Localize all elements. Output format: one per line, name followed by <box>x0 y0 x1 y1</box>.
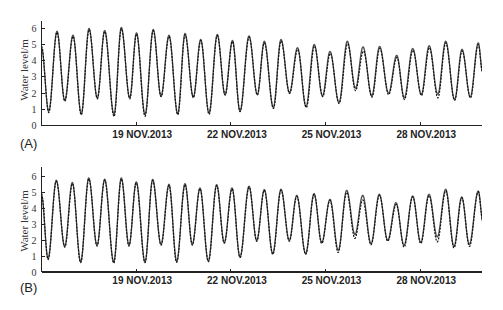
panel-label: (A) <box>20 136 37 151</box>
x-tick-date-label: 28 NOV.2013 <box>396 275 456 286</box>
y-tick-label: 5 <box>32 187 37 198</box>
dashed-series-line <box>42 29 483 117</box>
x-tick-date-label: 28 NOV.2013 <box>396 129 456 140</box>
panel-label: (B) <box>20 280 37 295</box>
y-tick-label: 2 <box>32 88 37 99</box>
y-tick-label: 0 <box>32 267 37 278</box>
y-tick-label: 1 <box>32 104 37 115</box>
x-tick-date-label: 22 NOV.2013 <box>207 129 267 140</box>
y-tick-label: 6 <box>32 171 37 182</box>
x-tick-date-label: 22 NOV.2013 <box>207 275 267 286</box>
y-tick-label: 4 <box>32 203 37 214</box>
x-tick-date-label: 25 NOV.2013 <box>302 275 362 286</box>
figure: 012345619 NOV.201322 NOV.201325 NOV.2013… <box>0 0 503 310</box>
y-tick-label: 0 <box>32 120 37 131</box>
y-tick-label: 5 <box>32 39 37 50</box>
y-tick-label: 3 <box>32 219 37 230</box>
x-tick-date-label: 25 NOV.2013 <box>302 129 362 140</box>
panel-a-water-level-chart: 012345619 NOV.201322 NOV.201325 NOV.2013… <box>18 21 482 151</box>
y-tick-label: 4 <box>32 55 37 66</box>
solid-series-line <box>42 27 483 114</box>
x-tick-date-label: 19 NOV.2013 <box>112 275 172 286</box>
y-axis-title: Water level/m <box>18 39 30 101</box>
y-axis-title: Water level/m <box>18 190 30 252</box>
panel-b-water-level-chart: 012345619 NOV.201322 NOV.201325 NOV.2013… <box>18 167 483 295</box>
y-tick-label: 6 <box>32 23 37 34</box>
x-tick-date-label: 19 NOV.2013 <box>112 129 172 140</box>
y-tick-label: 1 <box>32 251 37 262</box>
y-tick-label: 3 <box>32 71 37 82</box>
figure-canvas: 012345619 NOV.201322 NOV.201325 NOV.2013… <box>0 0 503 310</box>
y-tick-label: 2 <box>32 235 37 246</box>
